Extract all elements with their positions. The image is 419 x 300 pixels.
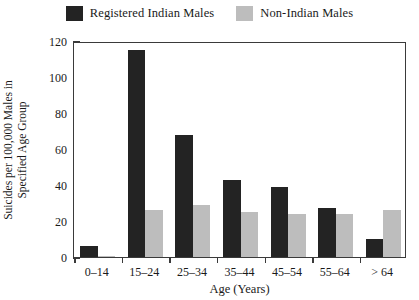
y-axis-tick-label: 100 <box>36 72 67 84</box>
x-axis-tick-label: 35–44 <box>225 266 255 279</box>
y-axis-title-line1: Suicides per 100,000 Males in <box>2 80 14 220</box>
bar-registered-indian-males <box>271 187 289 257</box>
x-axis-tick-label: 45–54 <box>272 266 302 279</box>
bar-non-indian-males <box>383 210 401 257</box>
bar-registered-indian-males <box>366 239 384 257</box>
legend-swatch-dark <box>66 6 83 21</box>
x-axis-tick <box>312 258 313 263</box>
x-axis-tick <box>360 258 361 263</box>
x-axis-tick-label: 25–34 <box>177 266 207 279</box>
bar-chart: Registered Indian Males Non-Indian Males… <box>0 0 419 300</box>
y-axis-title-line2: Specified Age Group <box>15 80 29 220</box>
legend-label-registered-indian-males: Registered Indian Males <box>90 7 215 20</box>
bar-non-indian-males <box>98 256 116 257</box>
bar-registered-indian-males <box>175 135 193 257</box>
x-axis-title: Age (Years) <box>73 283 406 296</box>
y-axis-tick-label: 60 <box>36 144 67 156</box>
x-axis-tick <box>169 258 170 263</box>
bar-non-indian-males <box>241 212 259 257</box>
x-axis-tick-label: 15–24 <box>129 266 159 279</box>
y-axis-tick-label: 80 <box>36 108 67 120</box>
x-axis-tick-label: 0–14 <box>85 266 109 279</box>
x-axis-tick <box>74 258 75 263</box>
bar-registered-indian-males <box>318 208 336 257</box>
x-axis-tick <box>265 258 266 263</box>
legend-item-non-indian-males: Non-Indian Males <box>236 6 353 21</box>
legend-label-non-indian-males: Non-Indian Males <box>260 7 353 20</box>
bars-container <box>74 43 405 257</box>
bar-non-indian-males <box>145 210 163 257</box>
bar-registered-indian-males <box>128 50 146 257</box>
legend-item-registered-indian-males: Registered Indian Males <box>66 6 215 21</box>
bar-non-indian-males <box>288 214 306 257</box>
y-axis-tick-label: 20 <box>36 216 67 228</box>
bar-registered-indian-males <box>80 246 98 257</box>
y-axis-title: Suicides per 100,000 Males in Specified … <box>0 42 30 258</box>
bar-non-indian-males <box>193 205 211 257</box>
x-axis-tick <box>217 258 218 263</box>
y-axis-tick-label: 40 <box>36 180 67 192</box>
plot-area <box>73 42 406 258</box>
y-axis-tick-label: 120 <box>36 36 67 48</box>
y-axis-tick-label: 0 <box>36 252 67 264</box>
x-axis-tick <box>122 258 123 263</box>
x-axis-tick-label: > 64 <box>371 266 393 279</box>
bar-non-indian-males <box>336 214 354 257</box>
legend-swatch-gray <box>236 6 253 21</box>
x-axis-tick-label: 55–64 <box>320 266 350 279</box>
chart-legend: Registered Indian Males Non-Indian Males <box>0 0 419 26</box>
bar-registered-indian-males <box>223 180 241 257</box>
